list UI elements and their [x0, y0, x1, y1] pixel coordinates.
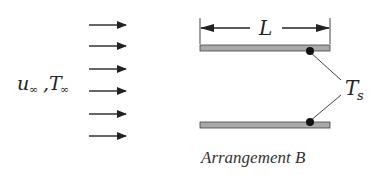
diagram-canvas: u ∞ , T ∞ L T s Arrangement B: [0, 0, 380, 175]
leader-line-bottom: [310, 95, 341, 121]
flow-arrows: [89, 25, 126, 136]
length-label: L: [258, 16, 272, 40]
temperature-subscript: ∞: [60, 83, 69, 96]
velocity-subscript: ∞: [29, 83, 38, 96]
leader-line-top: [310, 52, 341, 80]
surface-temp-subscript: s: [357, 88, 364, 103]
thermocouple-dot-bottom-icon: [306, 118, 314, 126]
velocity-symbol: u: [17, 72, 29, 94]
length-dimension: L: [200, 16, 330, 44]
arrangement-caption: Arrangement B: [200, 148, 306, 167]
free-stream-label: u ∞ , T ∞: [17, 72, 69, 96]
thermocouple-dot-top-icon: [306, 47, 314, 55]
surface-temperature-callout: T s: [306, 47, 364, 126]
